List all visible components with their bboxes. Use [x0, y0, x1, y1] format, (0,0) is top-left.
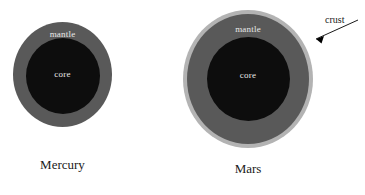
mars-caption: Mars — [183, 161, 313, 177]
mercury-diagram: mantle core — [13, 22, 112, 127]
mars-mantle-label: mantle — [183, 24, 313, 34]
mercury-caption: Mercury — [13, 157, 112, 173]
mercury-mantle-label: mantle — [13, 29, 112, 39]
mars-diagram: mantle core — [183, 10, 313, 148]
planet-interiors-figure: mantle core Mercury mantle core Mars cru… — [0, 0, 365, 195]
mars-crust-label: crust — [325, 14, 344, 25]
mars-core-label: core — [183, 70, 313, 80]
mercury-core-label: core — [13, 69, 112, 79]
